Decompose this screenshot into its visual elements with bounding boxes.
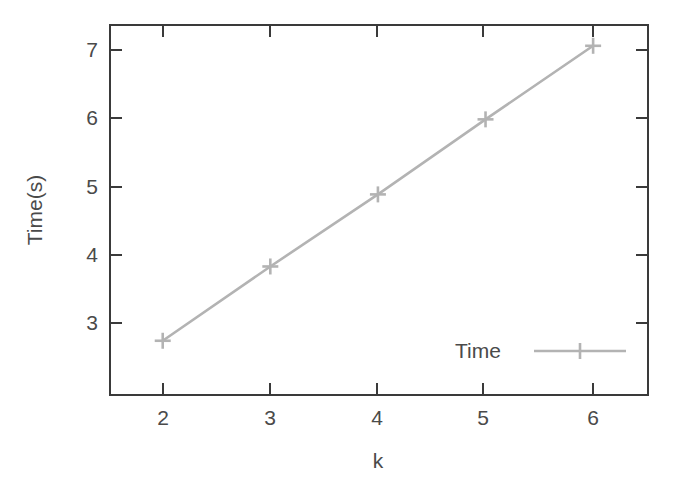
x-axis-ticks <box>163 25 593 395</box>
legend: Time <box>455 339 626 362</box>
x-tick-label: 5 <box>477 406 489 429</box>
y-tick-label: 7 <box>86 38 98 61</box>
data-point-marker <box>478 111 494 127</box>
x-tick-labels: 2 3 4 5 6 <box>157 406 599 429</box>
data-point-marker <box>155 333 171 349</box>
x-tick-label: 6 <box>587 406 599 429</box>
legend-sample-time <box>534 343 626 359</box>
chart-figure: 7 6 5 4 3 2 3 4 5 6 k Time(s) Time <box>0 0 676 488</box>
y-tick-label: 6 <box>86 106 98 129</box>
x-tick-label: 2 <box>157 406 169 429</box>
plot-frame <box>110 25 648 395</box>
line-chart-canvas: 7 6 5 4 3 2 3 4 5 6 k Time(s) Time <box>0 0 676 488</box>
x-axis-title: k <box>373 449 384 472</box>
y-tick-labels: 7 6 5 4 3 <box>86 38 98 334</box>
y-axis-title: Time(s) <box>23 175 46 245</box>
data-point-marker <box>585 38 601 54</box>
y-tick-label: 3 <box>86 311 98 334</box>
plot-border <box>110 25 648 395</box>
y-tick-label: 4 <box>86 243 98 266</box>
data-series-group <box>155 38 601 349</box>
y-tick-label: 5 <box>86 175 98 198</box>
legend-label-time: Time <box>455 339 501 362</box>
x-tick-label: 3 <box>264 406 276 429</box>
x-tick-label: 4 <box>371 406 383 429</box>
data-point-marker <box>262 258 278 274</box>
data-point-marker <box>370 186 386 202</box>
